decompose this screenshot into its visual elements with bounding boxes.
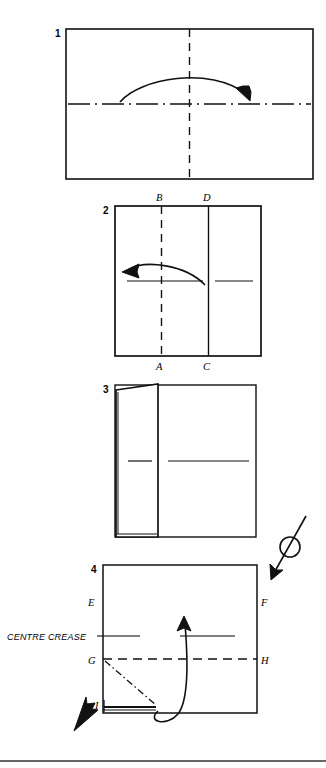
step-4-number: 4 [91,564,97,575]
turn-over-icon [270,516,306,580]
step-2-number: 2 [103,205,109,216]
step-3-number: 3 [103,384,109,395]
label-H: H [260,655,270,666]
label-D: D [202,192,211,203]
label-A: A [155,361,163,372]
step-4-figure [74,565,257,731]
step-4-paper-rect [103,565,257,713]
label-B: B [156,192,163,203]
label-C: C [203,361,211,372]
origami-instruction-page: 1 2 B D A C [0,0,326,768]
label-G: G [88,655,96,666]
label-I: I [94,700,99,711]
origami-diagram: 1 2 B D A C [0,0,326,768]
turn-over-arrowhead [270,564,283,580]
centre-crease-label: CENTRE CREASE [7,632,87,642]
step-1-figure [66,29,313,179]
step-3-figure [115,384,256,537]
turn-over-loop [280,537,300,557]
label-F: F [260,597,268,608]
label-E: E [87,597,95,608]
step-1-number: 1 [55,28,61,39]
turn-over-stroke [274,516,306,573]
step-2-figure [115,206,261,356]
